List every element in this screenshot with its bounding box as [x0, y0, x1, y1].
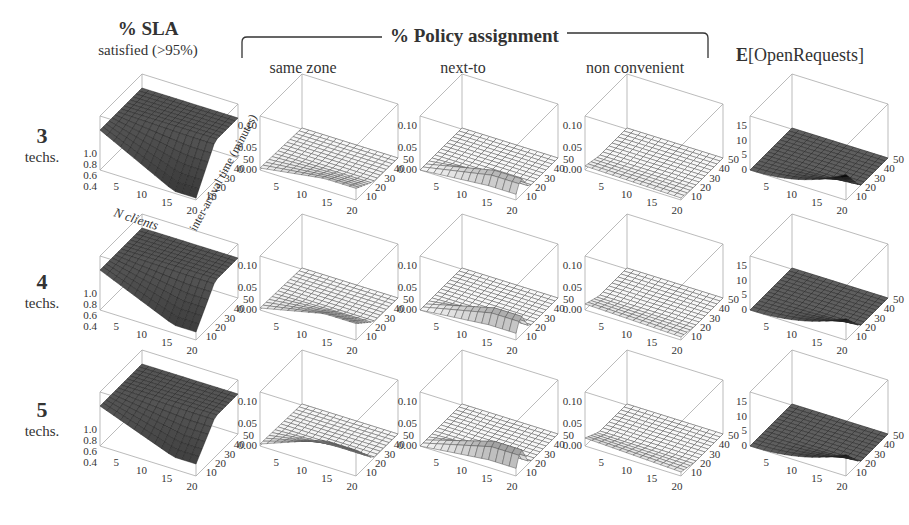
svg-text:10: 10 — [136, 328, 148, 340]
svg-text:0.05: 0.05 — [563, 417, 583, 429]
x-axis-label: N clients — [111, 204, 160, 233]
svg-text:1.0: 1.0 — [83, 287, 97, 299]
svg-text:0.05: 0.05 — [398, 417, 418, 429]
svg-text:20: 20 — [187, 344, 199, 356]
svg-text:0.4: 0.4 — [83, 320, 97, 332]
svg-text:15: 15 — [481, 336, 493, 348]
svg-text:0.00: 0.00 — [238, 439, 258, 451]
svg-text:0.00: 0.00 — [398, 439, 418, 451]
svg-text:15: 15 — [811, 472, 823, 484]
svg-text:50: 50 — [728, 153, 740, 165]
svg-text:5: 5 — [763, 180, 769, 192]
svg-text:0.05: 0.05 — [563, 281, 583, 293]
svg-text:20: 20 — [507, 344, 519, 356]
svg-text:15: 15 — [646, 196, 658, 208]
surface-panel: 0.000.050.1051015201020304050 — [563, 214, 740, 356]
svg-text:0.10: 0.10 — [398, 259, 418, 271]
svg-text:0.05: 0.05 — [238, 417, 258, 429]
surface-panel: 05101551015201020304050 — [736, 74, 905, 216]
svg-text:10: 10 — [296, 328, 308, 340]
svg-text:0.6: 0.6 — [83, 169, 97, 181]
svg-text:0.8: 0.8 — [83, 298, 97, 310]
svg-text:5: 5 — [742, 288, 748, 300]
svg-text:5: 5 — [273, 456, 279, 468]
svg-text:15: 15 — [811, 196, 823, 208]
surface-panel: 0.000.050.1051015201020304050 — [563, 74, 740, 216]
svg-text:50: 50 — [893, 153, 905, 165]
svg-text:20: 20 — [507, 204, 519, 216]
svg-text:10: 10 — [456, 464, 468, 476]
svg-text:0.05: 0.05 — [398, 141, 418, 153]
svg-text:20: 20 — [507, 480, 519, 492]
svg-text:5: 5 — [113, 320, 119, 332]
surface-panel: 0.40.60.81.051015201020304050 — [83, 350, 254, 492]
svg-text:10: 10 — [621, 464, 633, 476]
svg-text:1.0: 1.0 — [83, 423, 97, 435]
svg-text:0.00: 0.00 — [238, 163, 258, 175]
svg-text:15: 15 — [321, 196, 333, 208]
svg-text:5: 5 — [113, 456, 119, 468]
surface-panel: 0.000.050.1051015201020304050 — [398, 350, 575, 492]
surface-plot-grid: 0.40.60.81.051015201020304050N clientsin… — [0, 0, 909, 525]
svg-text:50: 50 — [728, 429, 740, 441]
svg-text:5: 5 — [598, 456, 604, 468]
svg-text:5: 5 — [273, 320, 279, 332]
svg-text:0: 0 — [742, 303, 748, 315]
surface-panel: 0.000.050.1051015201020304050 — [238, 214, 415, 356]
surface-panel: 05101551015201020304050 — [736, 214, 905, 356]
svg-text:15: 15 — [161, 472, 173, 484]
svg-text:5: 5 — [433, 320, 439, 332]
svg-text:0.8: 0.8 — [83, 158, 97, 170]
svg-text:5: 5 — [433, 456, 439, 468]
surface-panel: 05101551015201020304050 — [736, 350, 905, 492]
svg-text:10: 10 — [736, 134, 748, 146]
svg-text:50: 50 — [728, 293, 740, 305]
svg-text:10: 10 — [296, 188, 308, 200]
svg-text:0.00: 0.00 — [238, 303, 258, 315]
svg-text:5: 5 — [598, 180, 604, 192]
svg-text:15: 15 — [646, 336, 658, 348]
svg-text:0.05: 0.05 — [238, 281, 258, 293]
svg-text:15: 15 — [481, 472, 493, 484]
svg-text:0.10: 0.10 — [238, 259, 258, 271]
svg-text:20: 20 — [837, 204, 849, 216]
svg-text:15: 15 — [736, 395, 748, 407]
svg-text:0.10: 0.10 — [398, 395, 418, 407]
surface-panel: 0.000.050.1051015201020304050 — [238, 350, 415, 492]
svg-text:10: 10 — [136, 464, 148, 476]
svg-text:10: 10 — [621, 188, 633, 200]
surface-panel: 0.000.050.1051015201020304050 — [238, 74, 415, 216]
svg-text:15: 15 — [736, 119, 748, 131]
surface-panel: 0.000.050.1051015201020304050 — [398, 74, 575, 216]
svg-text:0.10: 0.10 — [238, 395, 258, 407]
svg-text:10: 10 — [136, 188, 148, 200]
svg-text:15: 15 — [481, 196, 493, 208]
svg-text:20: 20 — [837, 480, 849, 492]
svg-text:5: 5 — [433, 180, 439, 192]
svg-text:0: 0 — [742, 439, 748, 451]
svg-text:10: 10 — [736, 274, 748, 286]
svg-text:0.10: 0.10 — [563, 119, 583, 131]
svg-text:0.05: 0.05 — [398, 281, 418, 293]
svg-text:20: 20 — [672, 480, 684, 492]
surface-panel: 0.40.60.81.051015201020304050 — [83, 214, 254, 356]
svg-text:5: 5 — [763, 320, 769, 332]
svg-text:15: 15 — [161, 336, 173, 348]
svg-text:0.8: 0.8 — [83, 434, 97, 446]
surface-panel: 0.000.050.1051015201020304050 — [398, 214, 575, 356]
svg-text:15: 15 — [321, 336, 333, 348]
svg-text:0: 0 — [742, 163, 748, 175]
svg-text:20: 20 — [187, 480, 199, 492]
svg-text:20: 20 — [672, 204, 684, 216]
svg-text:0.6: 0.6 — [83, 445, 97, 457]
svg-text:0.6: 0.6 — [83, 309, 97, 321]
svg-text:0.4: 0.4 — [83, 456, 97, 468]
svg-text:10: 10 — [786, 328, 798, 340]
svg-text:20: 20 — [672, 344, 684, 356]
svg-text:0.10: 0.10 — [563, 395, 583, 407]
svg-text:0.00: 0.00 — [563, 163, 583, 175]
svg-text:5: 5 — [113, 180, 119, 192]
svg-text:10: 10 — [296, 464, 308, 476]
svg-text:0.10: 0.10 — [398, 119, 418, 131]
svg-text:0.00: 0.00 — [563, 439, 583, 451]
